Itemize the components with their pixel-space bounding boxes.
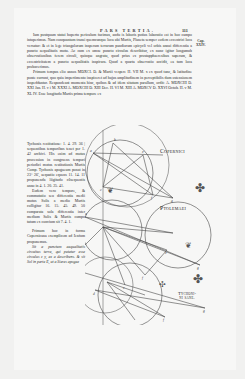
paragraph: Iam postquam statui hupertu periculum fa… xyxy=(27,33,192,70)
svg-text:❦: ❦ xyxy=(107,186,114,195)
svg-text:a: a xyxy=(90,149,92,153)
svg-text:f: f xyxy=(163,318,165,322)
paragraph: Sit a punctum aequalitatis circuitus ter… xyxy=(27,245,85,266)
svg-text:g: g xyxy=(197,266,199,270)
label-tycho: Tychoni- ni sane. xyxy=(178,292,196,301)
main-text: Iam postquam statui hupertu periculum fa… xyxy=(27,33,192,97)
svg-text:e: e xyxy=(165,251,167,255)
svg-text:✤: ✤ xyxy=(195,181,205,195)
svg-text:e: e xyxy=(142,150,144,154)
label-copernicus: Copernici xyxy=(160,148,185,154)
svg-text:a: a xyxy=(85,212,87,216)
label-tycho-line: ni sane. xyxy=(178,296,196,300)
svg-text:✤: ✤ xyxy=(193,272,203,286)
paragraph: Eodem vero tempore, & commutatio seu dif… xyxy=(27,189,85,225)
label-ptolemy: Ptolemaei xyxy=(160,205,186,211)
svg-text:f: f xyxy=(142,276,144,280)
svg-text:❦: ❦ xyxy=(185,241,192,250)
svg-text:g: g xyxy=(171,199,173,203)
column-text: Tychonis restitutione: 1. 4. 29. 36 | se… xyxy=(27,142,85,266)
paragraph: Primum tempus elio annos MDXCI. D. & Mar… xyxy=(27,70,192,97)
svg-text:c: c xyxy=(100,188,102,192)
svg-text:d: d xyxy=(93,292,95,296)
svg-text:✣: ✣ xyxy=(159,280,166,289)
fleuron-ornament: ❦ ✤ ❦ ✣ ✤ xyxy=(107,181,205,289)
svg-text:b: b xyxy=(114,138,116,142)
marginal-note-line: XXIV. xyxy=(196,43,206,47)
marginal-note: Cap. XXIV. xyxy=(196,39,206,47)
paragraph: Tychonis restitutione: 1. 4. 29. 36 | se… xyxy=(27,142,85,189)
svg-text:g: g xyxy=(203,309,205,313)
orbit-diagram: abe cgf aeg fc dgf ❦ ✤ ❦ ✣ ✤ xyxy=(85,125,235,325)
paragraph: Primum hoc in forma Copernicana exemplic… xyxy=(27,229,85,245)
